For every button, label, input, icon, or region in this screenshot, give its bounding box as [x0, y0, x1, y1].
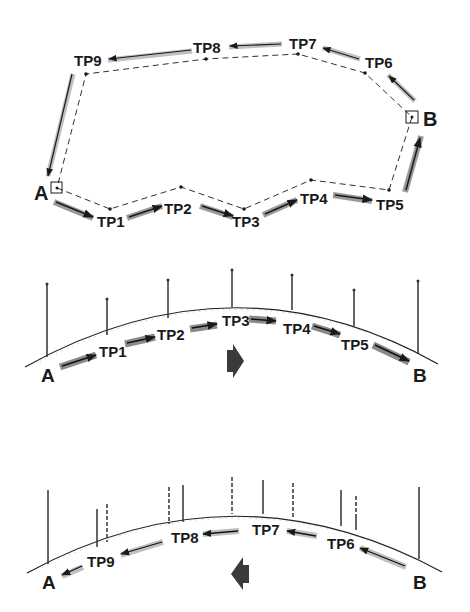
profile1-label-tp2: TP2	[157, 326, 185, 343]
profile1-label-tp1: TP1	[99, 343, 127, 360]
plan-label-a: A	[34, 182, 48, 204]
profile1-label-a: A	[41, 365, 55, 386]
plan-label-tp6: TP6	[365, 54, 393, 71]
plan-label-tp5: TP5	[376, 196, 404, 213]
profile2-label-a: A	[42, 572, 56, 593]
direction-right-arrow-icon	[227, 344, 244, 378]
plan-label-tp4: TP4	[300, 190, 328, 207]
profile1-label-tp5: TP5	[341, 336, 369, 353]
profile2-label-tp8: TP8	[171, 529, 199, 546]
plan-label-tp1: TP1	[97, 213, 125, 230]
profile1-label-tp4: TP4	[283, 320, 311, 337]
plan-label-tp7: TP7	[289, 35, 317, 52]
profile-forward: A B TP1 TP2 TP3 TP4 TP5	[25, 269, 438, 387]
traverse-path	[57, 54, 412, 209]
profile2-label-tp9: TP9	[87, 553, 115, 570]
profile2-label-b: B	[413, 572, 427, 593]
plan-label-tp9: TP9	[74, 52, 102, 69]
profile1-label-tp3: TP3	[222, 312, 250, 329]
plan-label-tp8: TP8	[193, 39, 221, 56]
traverse-diagram: A B TP1 TP2 TP3 TP4 TP5 TP6 TP7 TP8 TP9	[0, 0, 470, 612]
direction-left-arrow-icon	[231, 557, 249, 590]
plan-label-tp2: TP2	[164, 200, 192, 217]
profile1-label-b: B	[413, 365, 427, 386]
profile2-label-tp6: TP6	[327, 535, 355, 552]
plan-label-b: B	[423, 108, 437, 130]
station-dots	[84, 52, 391, 211]
profile2-label-tp7: TP7	[252, 521, 280, 538]
profile-return: A B TP6 TP7 TP8 TP9	[27, 477, 442, 593]
plan-label-tp3: TP3	[232, 213, 260, 230]
plan-view: A B TP1 TP2 TP3 TP4 TP5 TP6 TP7 TP8 TP9	[34, 35, 437, 230]
